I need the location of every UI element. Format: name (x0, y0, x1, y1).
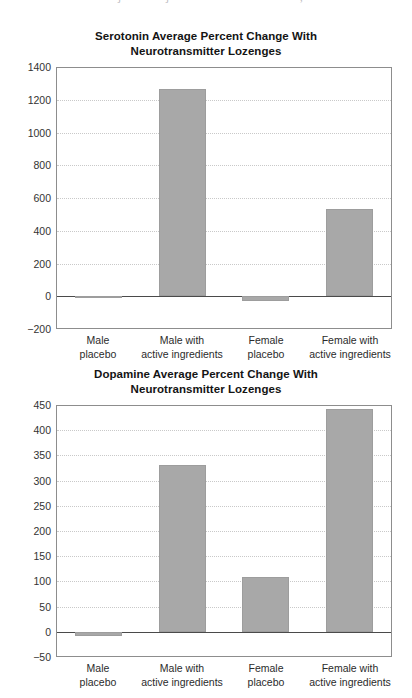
dopamine-chart-title: Dopamine Average Percent Change With Neu… (10, 359, 402, 397)
serotonin-bars (57, 67, 391, 328)
serotonin-y-axis: 1400120010008006004002000−200 (10, 67, 55, 329)
dopamine-bar (159, 465, 206, 631)
dopamine-plot-area (56, 405, 392, 657)
serotonin-xtick-line-1: Female with (295, 334, 405, 348)
artifact-glyph: j (166, 0, 169, 3)
figure-page: Serotonin Average Percent Change With Ne… (10, 11, 402, 687)
serotonin-ytick-label: 1000 (28, 127, 51, 139)
serotonin-plot-wrapper: 1400120010008006004002000−200 Maleplaceb… (10, 67, 402, 329)
dopamine-xtick-label: Female withactive ingredients (295, 662, 405, 689)
dopamine-ytick-label: 250 (33, 500, 51, 512)
dopamine-plot-wrapper: 450400350300250200150100500−50 Maleplace… (10, 405, 402, 657)
dopamine-ytick-label: 200 (33, 525, 51, 537)
serotonin-chart-title: Serotonin Average Percent Change With Ne… (10, 11, 402, 59)
dopamine-y-axis: 450400350300250200150100500−50 (10, 405, 55, 657)
dopamine-xtick-line-1: Female with (295, 662, 405, 676)
artifact-glyph: j (118, 0, 121, 3)
dopamine-bars (57, 405, 391, 656)
dopamine-bar (242, 577, 289, 631)
serotonin-bar (326, 209, 373, 296)
artifact-glyph: , (300, 0, 303, 3)
dopamine-xtick-line-2: active ingredients (295, 676, 405, 690)
serotonin-bar (159, 89, 206, 296)
dopamine-bar (75, 632, 122, 636)
serotonin-xtick-label: Female withactive ingredients (295, 334, 405, 361)
dopamine-ytick-label: 150 (33, 550, 51, 562)
serotonin-ytick-label: 800 (33, 159, 51, 171)
serotonin-bar (75, 296, 122, 298)
serotonin-title-line-2: Neurotransmitter Lozenges (131, 45, 282, 57)
serotonin-ytick-label: 400 (33, 225, 51, 237)
dopamine-ytick-label: 400 (33, 424, 51, 436)
dopamine-ytick-label: 50 (39, 601, 51, 613)
dopamine-ytick-label: 0 (45, 626, 51, 638)
serotonin-bar (242, 296, 289, 301)
serotonin-ytick-label: 200 (33, 258, 51, 270)
serotonin-ytick-label: 1200 (28, 94, 51, 106)
serotonin-figure: Serotonin Average Percent Change With Ne… (10, 11, 402, 359)
serotonin-x-axis-labels: MaleplaceboMale withactive ingredientsFe… (56, 329, 392, 363)
serotonin-title-line-1: Serotonin Average Percent Change With (95, 30, 317, 42)
serotonin-ytick-label: 0 (45, 290, 51, 302)
dopamine-ytick-label: 350 (33, 449, 51, 461)
serotonin-plot-area (56, 67, 392, 329)
serotonin-ytick-label: 600 (33, 192, 51, 204)
dopamine-figure: Dopamine Average Percent Change With Neu… (10, 359, 402, 687)
page-top-artifact: j j , (0, 0, 412, 11)
dopamine-bar (326, 409, 373, 632)
dopamine-x-axis-labels: MaleplaceboMale withactive ingredientsFe… (56, 657, 392, 691)
dopamine-ytick-label: 100 (33, 575, 51, 587)
dopamine-title-line-2: Neurotransmitter Lozenges (131, 383, 282, 395)
dopamine-title-line-1: Dopamine Average Percent Change With (94, 368, 318, 380)
dopamine-ytick-label: 450 (33, 399, 51, 411)
dopamine-ytick-label: 300 (33, 475, 51, 487)
serotonin-ytick-label: 1400 (28, 61, 51, 73)
